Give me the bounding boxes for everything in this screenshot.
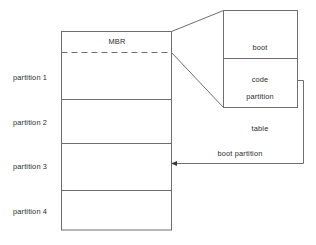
partition-3-label: partition 3 [13,162,47,171]
boot-code-label-line1: boot [252,43,269,54]
callout-leader-top [172,11,224,32]
partition-1-label: partition 1 [13,73,47,82]
partition-table-label: partition table [246,71,274,155]
partition-2-label: partition 2 [13,118,47,127]
partition-table-label-line2: table [246,124,274,135]
partition-4-label: partition 4 [13,207,47,216]
mbr-label: MBR [109,37,126,46]
disk-outline [62,32,172,231]
callout-leader-bottom [172,53,224,108]
boot-partition-label: boot partition [218,149,263,158]
partition-table-label-line1: partition [246,92,274,103]
diagram-canvas: MBR partition 1 partition 2 partition 3 … [0,0,316,245]
